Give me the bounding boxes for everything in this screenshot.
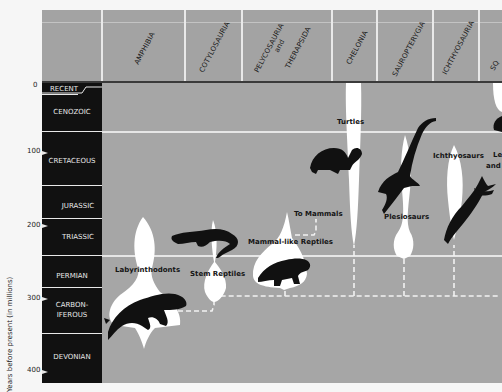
labyrinthodont-range-shape — [109, 217, 180, 349]
label-turtles: Turtles — [337, 118, 364, 126]
label-ichthyosaurs: Ichthyosaurs — [433, 152, 484, 160]
label-to-mammals: To Mammals — [294, 210, 343, 218]
label-mammal-like-reptiles: Mammal-like Reptiles — [248, 238, 333, 246]
label-plesiosaurs: Plesiosaurs — [384, 213, 429, 221]
squamata-range-shape — [493, 83, 502, 112]
label-stem-reptiles: Stem Reptiles — [190, 270, 245, 278]
lepidosaur-partial-silhouette — [493, 116, 502, 132]
label-and-partial: and — [486, 162, 501, 170]
label-lepidosaurs-partial: Le — [493, 151, 502, 159]
stem-reptile-silhouette — [171, 229, 238, 258]
label-labyrinthodonts: Labyrinthodonts — [115, 266, 180, 274]
